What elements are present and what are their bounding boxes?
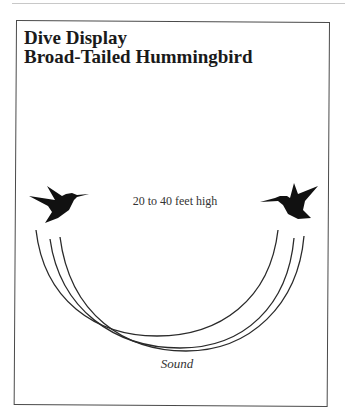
right-hummingbird-icon	[260, 183, 318, 219]
left-hummingbird-icon	[29, 186, 89, 223]
dive-arc-2	[50, 238, 294, 348]
dive-arcs	[36, 230, 304, 351]
sound-label: Sound	[140, 356, 214, 372]
height-label: 20 to 40 feet high	[120, 194, 230, 209]
